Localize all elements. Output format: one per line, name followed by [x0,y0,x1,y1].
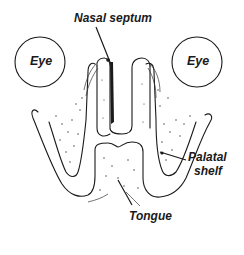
nasal-septum-label: Nasal septum [74,12,152,25]
palatal-shelf-label-line1: Palatal [188,151,227,164]
eye-right-label: Eye [187,55,209,68]
nasal-fibers [84,64,160,206]
nasal-septum-outline [97,58,150,134]
tongue-label: Tongue [129,210,172,223]
stippling [55,79,190,190]
palatal-shelf-leader-tip [160,151,163,154]
septum-core [110,62,114,124]
nasal-septum-leader [96,27,110,62]
palatal-shelf-leader [160,152,186,160]
palatal-shelf-label-line2: shelf [194,165,222,178]
nasal-septum-leader-tip [106,58,110,62]
left-nasal-wall [97,66,110,136]
eye-left-label: Eye [30,55,52,68]
tongue-leader [118,180,132,205]
palate-development-diagram [0,0,244,255]
